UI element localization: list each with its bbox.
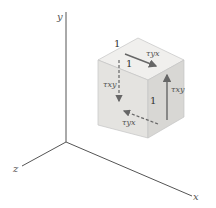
- x-axis: [66, 142, 192, 196]
- edge-label-right: 1: [150, 95, 156, 106]
- edge-label-front: 1: [126, 58, 132, 69]
- x-axis-label: x: [193, 191, 199, 202]
- tau-xy-front-label: τxy: [103, 80, 117, 89]
- edge-label-top: 1: [114, 38, 120, 49]
- z-axis-label: z: [12, 163, 19, 174]
- stress-element-diagram: y x z 1 1 1 τyx τxy τxy τyx: [0, 0, 216, 208]
- z-axis: [22, 142, 66, 166]
- tau-yx-top-label: τyx: [146, 49, 160, 58]
- y-axis-label: y: [56, 11, 63, 22]
- tau-yx-bottom-label: τyx: [122, 118, 136, 127]
- tau-xy-right-label: τxy: [171, 85, 185, 94]
